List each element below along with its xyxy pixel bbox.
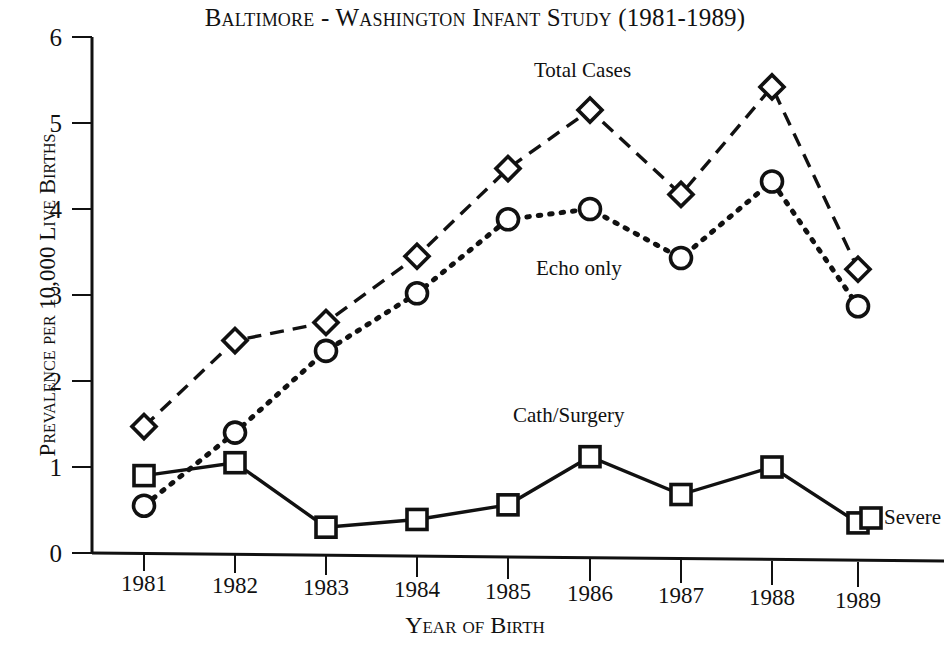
- series-line: [144, 181, 858, 505]
- data-point-diamond-1989: [846, 257, 870, 281]
- data-series-layer: [132, 75, 881, 537]
- data-point-square-1984: [407, 509, 427, 529]
- data-point-square-1981: [134, 466, 154, 486]
- data-point-square-1982: [225, 453, 245, 473]
- data-point-circle-1988: [762, 171, 783, 192]
- data-point-circle-1985: [498, 209, 519, 230]
- data-point-square-1988: [762, 457, 782, 477]
- series-line: [144, 87, 858, 427]
- data-point-circle-1981: [134, 495, 155, 516]
- data-point-diamond-1984: [405, 244, 429, 268]
- plot-area: [0, 0, 950, 648]
- data-point-square-1985: [498, 495, 518, 515]
- data-point-circle-1983: [316, 340, 337, 361]
- series-cath-surgery: [134, 447, 868, 538]
- data-point-diamond-1983: [314, 310, 338, 334]
- data-point-circle-1989: [848, 296, 869, 317]
- series-total-cases: [132, 75, 870, 439]
- data-point-circle-1984: [407, 283, 428, 304]
- data-point-square-1987: [671, 485, 691, 505]
- data-point-circle-1987: [671, 248, 692, 269]
- severe-key-square-icon: [861, 508, 881, 528]
- data-point-diamond-1986: [578, 98, 602, 122]
- data-point-square-1986: [580, 447, 600, 467]
- data-point-circle-1986: [580, 199, 601, 220]
- x-axis-line: [92, 553, 944, 561]
- data-point-circle-1982: [225, 422, 246, 443]
- chart-figure: Baltimore - Washington Infant Study (198…: [0, 0, 950, 648]
- data-point-square-1983: [316, 517, 336, 537]
- data-point-diamond-1982: [223, 329, 247, 353]
